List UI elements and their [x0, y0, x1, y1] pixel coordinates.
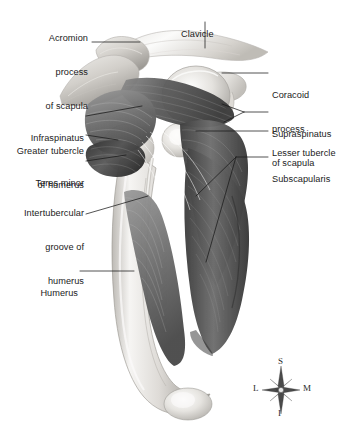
label-humerus-line1: Humerus: [0, 288, 78, 299]
compass-label-superior: S: [278, 356, 283, 366]
compass-label-inferior: I: [278, 408, 281, 418]
label-coracoid-line1: Coracoid: [272, 90, 354, 101]
label-humerus: Humerus: [0, 265, 78, 322]
label-subscapularis-line1: Subscapularis: [272, 174, 356, 185]
orientation-compass: S I L M: [248, 352, 314, 424]
label-acromion-line1: Acromion: [8, 33, 88, 44]
label-intertubercular-line1: Intertubercular: [2, 208, 84, 219]
label-acromion-line2: process: [8, 67, 88, 78]
label-intertubercular-line2: groove of: [2, 242, 84, 253]
teres-minor-muscle: [86, 140, 146, 177]
anatomy-figure: Acromion process of scapula Clavicle Cor…: [0, 0, 356, 435]
label-clavicle: Clavicle: [181, 6, 251, 63]
label-subscapularis: Subscapularis: [272, 151, 356, 208]
compass-label-lateral: L: [253, 383, 259, 393]
compass-label-medial: M: [303, 383, 311, 393]
label-clavicle-line1: Clavicle: [181, 29, 251, 40]
